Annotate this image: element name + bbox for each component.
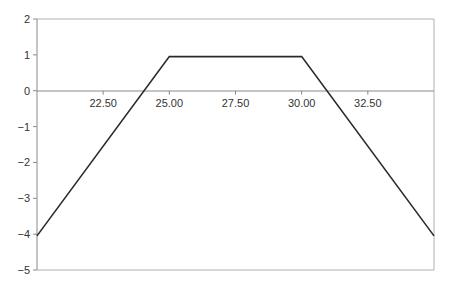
payoff-line-chart: 210−1−2−3−4−5 22.5025.0027.5030.0032.50 [0,0,451,287]
y-tick-label: −5 [17,264,30,276]
x-tick-label: 30.00 [288,97,316,109]
y-tick-label: −4 [17,228,30,240]
payoff-series-line [37,57,434,236]
x-tick-label: 27.50 [222,97,250,109]
x-tick-label: 22.50 [89,97,117,109]
y-tick-label: 2 [24,13,30,25]
x-tick-label: 25.00 [156,97,184,109]
y-tick-label: 1 [24,49,30,61]
y-tick-label: −3 [17,192,30,204]
y-tick-label: −1 [17,121,30,133]
x-tick-label: 32.50 [354,97,382,109]
y-tick-label: 0 [24,85,30,97]
y-tick-label: −2 [17,156,30,168]
y-axis-ticks: 210−1−2−3−4−5 [17,13,37,276]
